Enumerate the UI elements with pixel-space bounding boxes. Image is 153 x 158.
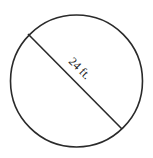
diameter-line bbox=[28, 34, 122, 129]
circle-outline bbox=[11, 15, 143, 147]
diameter-label: 24 ft. bbox=[66, 54, 94, 82]
circle-diagram: 24 ft. bbox=[0, 0, 153, 158]
